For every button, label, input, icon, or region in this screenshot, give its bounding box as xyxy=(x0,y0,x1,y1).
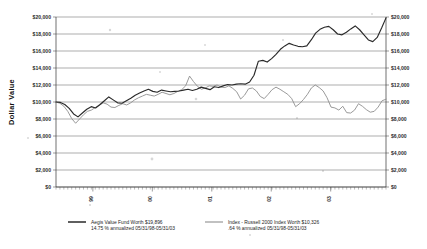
scan-speck xyxy=(204,44,206,46)
y-axis-title: Dollar Value xyxy=(7,79,16,125)
y-axis-tick-label-right: $20,000 xyxy=(391,14,410,20)
scan-speck xyxy=(159,71,161,73)
scan-speck xyxy=(195,98,198,101)
scan-speck xyxy=(371,13,373,15)
y-axis-tick-label-right: $2,000 xyxy=(391,167,407,173)
chart-container: $20,000$20,000$18,000$18,000$16,000$16,0… xyxy=(0,0,427,249)
x-axis-tick-label: 99 xyxy=(88,196,94,202)
y-axis-tick-label-right: $10,000 xyxy=(391,99,410,105)
y-axis-tick-label-left: $0 xyxy=(45,184,51,190)
x-axis-tick-label: 03 xyxy=(326,196,332,202)
y-axis-tick-label-left: $18,000 xyxy=(33,31,52,37)
growth-of-investment-chart: $20,000$20,000$18,000$18,000$16,000$16,0… xyxy=(0,0,427,249)
legend-sublabel-russell-2000-index: .64 % annualized 05/31/98-05/31/03 xyxy=(228,226,307,231)
y-axis-tick-label-right: $6,000 xyxy=(391,133,407,139)
y-axis-tick-label-right: $18,000 xyxy=(391,31,410,37)
y-axis-tick-label-left: $20,000 xyxy=(33,14,52,20)
x-axis-tick-label: 02 xyxy=(266,196,272,202)
scan-speck xyxy=(282,39,284,41)
y-axis-tick-label-right: $12,000 xyxy=(391,82,410,88)
y-axis-tick-label-left: $2,000 xyxy=(35,167,51,173)
y-axis-tick-label-left: $4,000 xyxy=(35,150,51,156)
y-axis-tick-label-left: $14,000 xyxy=(33,65,52,71)
y-axis-tick-label-right: $4,000 xyxy=(391,150,407,156)
legend-sublabel-aegis-value-fund: 14.75 % annualized 05/31/98-05/31/03 xyxy=(91,226,175,231)
y-axis-tick-label-left: $12,000 xyxy=(33,82,52,88)
legend-label-aegis-value-fund: Aegis Value Fund Worth $19,896 xyxy=(91,220,163,225)
y-axis-tick-label-right: $0 xyxy=(391,184,397,190)
legend-label-russell-2000-index: Index - Russell 2000 Index Worth $10,326 xyxy=(228,220,320,225)
scan-speck xyxy=(109,29,111,31)
scan-speck xyxy=(27,137,29,139)
x-axis-tick-label: 01 xyxy=(207,196,213,202)
y-axis-tick-label-right: $16,000 xyxy=(391,48,410,54)
y-axis-tick-label-right: $14,000 xyxy=(391,65,410,71)
scan-speck xyxy=(322,170,324,172)
y-axis-tick-label-right: $8,000 xyxy=(391,116,407,122)
scan-speck xyxy=(296,117,298,119)
scan-speck xyxy=(89,204,91,206)
y-axis-tick-label-left: $8,000 xyxy=(35,116,51,122)
y-axis-tick-label-left: $10,000 xyxy=(33,99,52,105)
scan-speck xyxy=(249,234,251,236)
scan-speck xyxy=(151,158,154,161)
y-axis-tick-label-left: $6,000 xyxy=(35,133,51,139)
x-axis-tick-label: 00 xyxy=(147,196,153,202)
y-axis-tick-label-left: $16,000 xyxy=(33,48,52,54)
